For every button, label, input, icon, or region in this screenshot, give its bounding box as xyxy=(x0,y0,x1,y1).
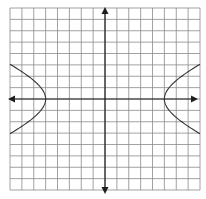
coordinate-axes xyxy=(8,7,198,194)
hyperbola-graph xyxy=(0,0,206,199)
y-axis-down-arrow-icon xyxy=(102,187,109,194)
x-axis-right-arrow-icon xyxy=(191,96,198,103)
x-axis-left-arrow-icon xyxy=(8,96,15,103)
